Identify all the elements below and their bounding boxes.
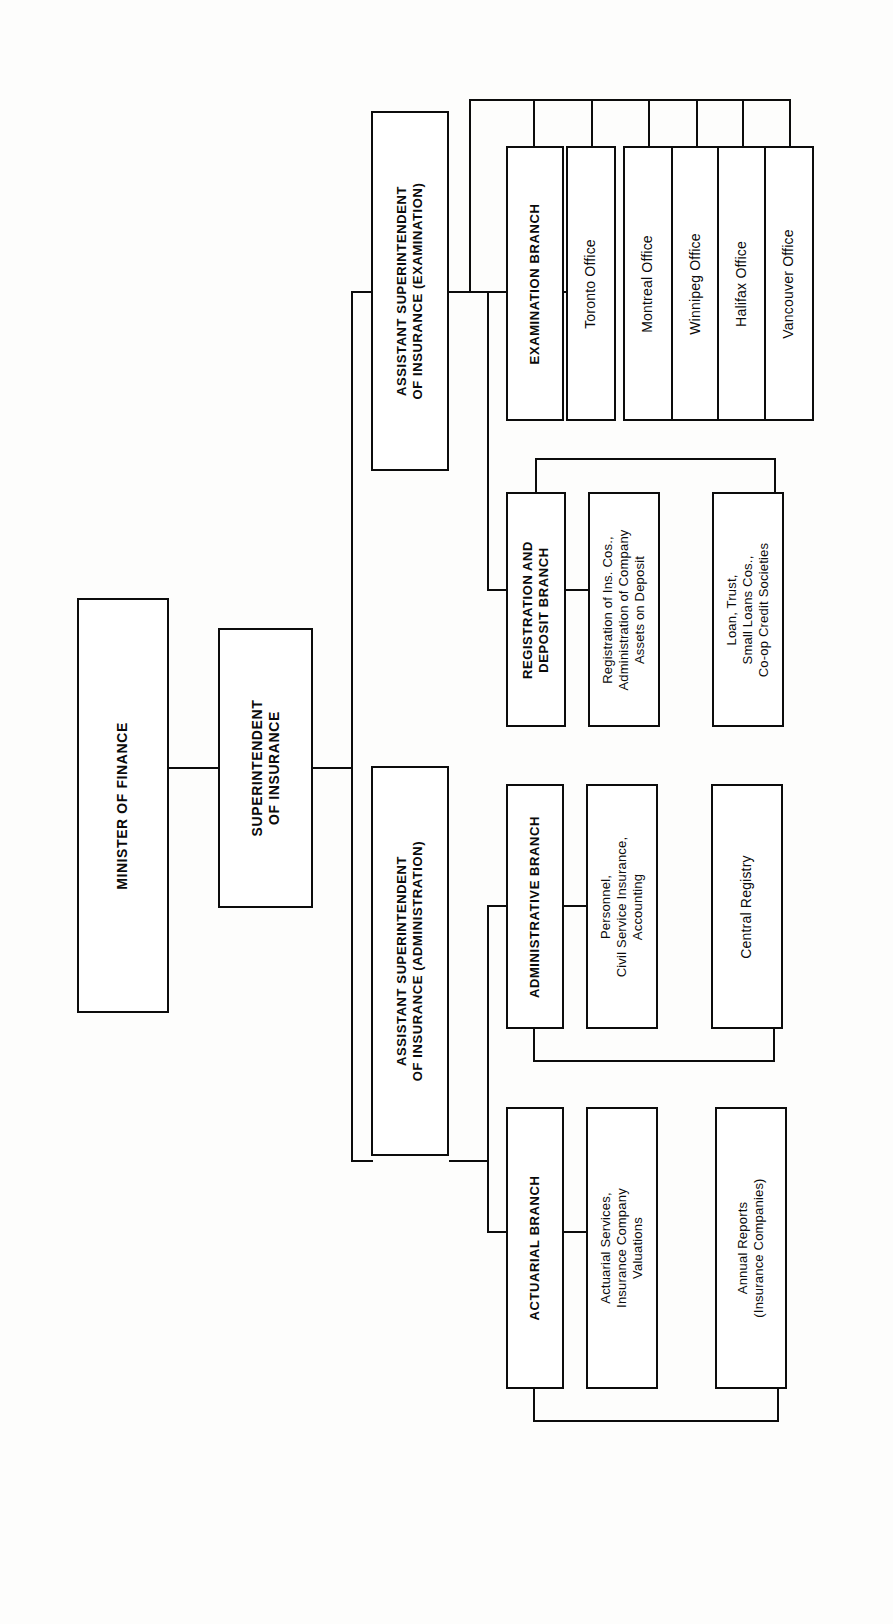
connector-minister-superintendent — [169, 767, 218, 769]
node-central-registry: Central Registry — [711, 784, 783, 1029]
connector-registration-riser — [535, 459, 537, 492]
node-label: REGISTRATION AND DEPOSIT BRANCH — [520, 540, 552, 678]
org-chart-page: DEPARTMENT OF INSURANCE MINISTER OF FINA… — [0, 0, 893, 1624]
connector-riser-toronto — [591, 99, 593, 147]
node-label: ADMINISTRATIVE BRANCH — [527, 815, 543, 997]
node-administrative-functions: Personnel, Civil Service Insurance, Acco… — [586, 784, 658, 1029]
node-annual-reports: Annual Reports (Insurance Companies) — [715, 1107, 787, 1389]
node-loan-trust-functions: Loan, Trust, Small Loans Cos., Co-op Cre… — [712, 492, 784, 727]
connector-offices-bus-stub — [469, 100, 471, 291]
node-label: ASSISTANT SUPERINTENDENT OF INSURANCE (E… — [394, 183, 426, 400]
node-label: Montreal Office — [639, 235, 656, 333]
connector-riser-central-registry — [773, 1029, 775, 1062]
connector-spine-to-asst-admin — [351, 1160, 373, 1162]
node-registration-and-deposit-branch: REGISTRATION AND DEPOSIT BRANCH — [506, 492, 566, 727]
connector-administrative-riser — [533, 1029, 535, 1062]
node-assistant-superintendent-examination: ASSISTANT SUPERINTENDENT OF INSURANCE (E… — [371, 111, 449, 471]
connector-riser-vancouver — [789, 99, 791, 147]
node-label: Annual Reports (Insurance Companies) — [735, 1178, 767, 1317]
node-superintendent-of-insurance: SUPERINTENDENT OF INSURANCE — [218, 628, 313, 908]
node-administrative-branch: ADMINISTRATIVE BRANCH — [506, 784, 564, 1029]
node-actuarial-functions: Actuarial Services, Insurance Company Va… — [586, 1107, 658, 1389]
connector-asst-exam-stub — [449, 291, 489, 293]
node-label: Actuarial Services, Insurance Company Va… — [598, 1188, 646, 1308]
node-toronto-office: Toronto Office — [566, 146, 616, 421]
connector-spine-to-asst-exam — [351, 291, 373, 293]
connector-admin-branch-spine-lower — [487, 1160, 489, 1233]
connector-asst-admin-stub — [449, 1160, 489, 1162]
node-label: SUPERINTENDENT OF INSURANCE — [248, 700, 282, 837]
connector-admin-branch-spine — [487, 905, 489, 1162]
connector-spine-to-registration-branch — [487, 589, 507, 591]
connector-assistants-spine — [351, 291, 353, 769]
node-actuarial-branch: ACTUARIAL BRANCH — [506, 1107, 564, 1389]
connector-exam-branch-spine — [487, 291, 489, 591]
node-label: ASSISTANT SUPERINTENDENT OF INSURANCE (A… — [394, 841, 426, 1081]
node-minister-of-finance: MINISTER OF FINANCE — [77, 598, 169, 1013]
node-registration-functions: Registration of Ins. Cos., Administratio… — [588, 492, 660, 727]
node-label: Halifax Office — [733, 241, 750, 327]
connector-examination-branch-riser — [533, 100, 535, 146]
node-montreal-office: Montreal Office — [623, 146, 673, 421]
node-label: Registration of Ins. Cos., Administratio… — [600, 529, 648, 690]
connector-actuarial-bus — [533, 1420, 779, 1422]
connector-superintendent-stub — [313, 767, 353, 769]
connector-administrative-branch-stub — [564, 905, 586, 907]
connector-administrative-bus — [533, 1060, 775, 1062]
node-label: ACTUARIAL BRANCH — [527, 1175, 543, 1320]
node-winnipeg-office: Winnipeg Office — [671, 146, 721, 421]
connector-spine-to-administrative-branch — [487, 905, 507, 907]
node-label: Loan, Trust, Small Loans Cos., Co-op Cre… — [724, 542, 772, 676]
node-label: Personnel, Civil Service Insurance, Acco… — [598, 836, 646, 977]
connector-riser-winnipeg — [696, 99, 698, 147]
connector-riser-montreal — [648, 99, 650, 147]
connector-actuarial-riser — [533, 1389, 535, 1422]
connector-registration-branch-stub — [566, 589, 588, 591]
node-label: Winnipeg Office — [687, 233, 704, 335]
node-halifax-office: Halifax Office — [717, 146, 767, 421]
connector-assistants-spine-lower — [351, 767, 353, 1162]
connector-spine-to-actuarial-branch — [487, 1231, 507, 1233]
connector-spine-to-examination-branch — [487, 291, 507, 293]
connector-registration-bus — [535, 458, 776, 460]
node-label: Toronto Office — [582, 239, 599, 329]
connector-actuarial-branch-stub — [564, 1231, 586, 1233]
node-label: MINISTER OF FINANCE — [114, 722, 131, 890]
node-vancouver-office: Vancouver Office — [764, 146, 814, 421]
node-examination-branch: EXAMINATION BRANCH — [506, 146, 564, 421]
node-label: EXAMINATION BRANCH — [527, 203, 543, 364]
node-label: Vancouver Office — [780, 229, 797, 338]
node-label: Central Registry — [738, 855, 755, 959]
connector-riser-annual-reports — [777, 1389, 779, 1422]
connector-riser-loan-trust — [774, 458, 776, 493]
connector-riser-halifax — [742, 99, 744, 147]
node-assistant-superintendent-administration: ASSISTANT SUPERINTENDENT OF INSURANCE (A… — [371, 766, 449, 1156]
